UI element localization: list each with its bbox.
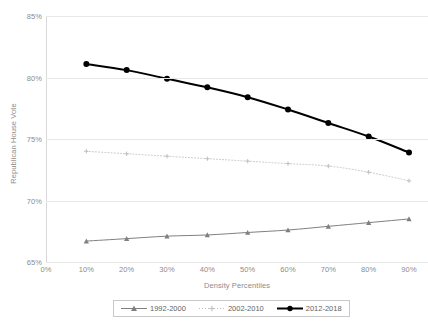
data-point xyxy=(285,106,291,112)
x-axis-tick-labels: 0% 10% 20% 30% 40% 50% 60% 70% 80% 90% xyxy=(46,265,428,279)
legend-swatch-circle-icon xyxy=(277,304,303,313)
data-point xyxy=(245,94,251,100)
data-point xyxy=(165,154,169,158)
gridline-75 xyxy=(46,139,428,140)
x-axis-title: Density Percentiles xyxy=(46,281,428,290)
data-point xyxy=(407,179,411,183)
gridline-65 xyxy=(46,262,428,263)
legend-item-2002-2010[interactable]: 2002-2010 xyxy=(199,304,264,313)
gridline-80 xyxy=(46,78,428,79)
data-point xyxy=(84,149,88,153)
legend-label-1992-2000: 1992-2000 xyxy=(150,304,186,313)
legend-label-2002-2010: 2002-2010 xyxy=(228,304,264,313)
data-point xyxy=(366,170,370,174)
data-point xyxy=(124,152,128,156)
x-tick-40: 40% xyxy=(185,265,229,274)
data-point xyxy=(83,61,89,67)
x-tick-20: 20% xyxy=(105,265,149,274)
x-tick-30: 30% xyxy=(145,265,189,274)
x-tick-50: 50% xyxy=(226,265,270,274)
series-line xyxy=(86,151,409,181)
series-2002-2010 xyxy=(84,149,411,183)
x-tick-10: 10% xyxy=(64,265,108,274)
gridline-70 xyxy=(46,201,428,202)
legend-item-1992-2000[interactable]: 1992-2000 xyxy=(121,304,186,313)
data-point xyxy=(205,156,209,160)
y-tick-85: 85% xyxy=(2,12,42,21)
series-2012-2018 xyxy=(83,61,412,156)
y-tick-80: 80% xyxy=(2,73,42,82)
series-1992-2000 xyxy=(84,216,412,243)
y-axis-title: Republican House Vote xyxy=(9,84,18,204)
line-chart: 85% 80% 75% 70% 65% Republican House Vot… xyxy=(0,0,428,329)
data-point xyxy=(124,67,130,73)
data-point xyxy=(326,164,330,168)
data-point xyxy=(286,161,290,165)
plot-area xyxy=(46,16,428,262)
data-point xyxy=(245,159,249,163)
x-tick-60: 60% xyxy=(266,265,310,274)
data-point xyxy=(406,150,412,156)
chart-legend: 1992-2000 2002-2010 2012-2018 xyxy=(113,300,350,317)
legend-swatch-plus-icon xyxy=(199,304,225,313)
x-tick-0: 0% xyxy=(24,265,68,274)
y-axis-tick-labels: 85% 80% 75% 70% 65% xyxy=(0,16,42,262)
x-tick-80: 80% xyxy=(347,265,391,274)
data-point xyxy=(325,120,331,126)
data-point xyxy=(204,84,210,90)
legend-item-2012-2018[interactable]: 2012-2018 xyxy=(277,304,342,313)
x-tick-90: 90% xyxy=(387,265,428,274)
legend-label-2012-2018: 2012-2018 xyxy=(306,304,342,313)
series-layer xyxy=(46,16,428,264)
legend-swatch-triangle-icon xyxy=(121,304,147,313)
gridline-85 xyxy=(46,16,428,17)
x-tick-70: 70% xyxy=(306,265,350,274)
